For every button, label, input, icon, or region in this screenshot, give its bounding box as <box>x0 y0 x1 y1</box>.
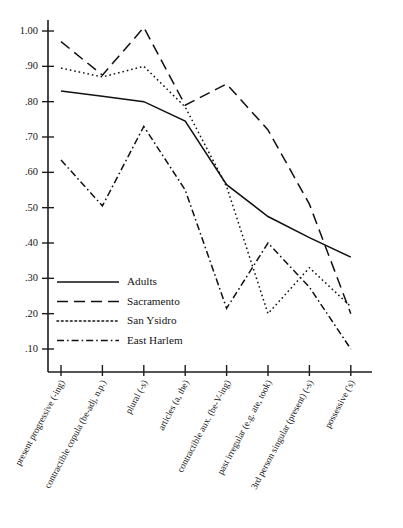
y-tick-label: .90 <box>25 60 38 71</box>
legend-label-san-ysidro: San Ysidro <box>127 314 177 326</box>
y-axis: 1.00.90.80.70.60.50.40.30.20.10 <box>20 20 54 372</box>
y-tick-label: .60 <box>25 166 38 177</box>
y-tick-label: .30 <box>25 272 38 283</box>
legend-label-east-harlem: East Harlem <box>127 334 183 346</box>
series-lines <box>61 27 351 349</box>
x-tick-label: articles (a, the) <box>156 378 192 432</box>
series-line-san-ysidro <box>61 66 351 313</box>
y-tick-label: .80 <box>25 96 38 107</box>
y-tick-label: .70 <box>25 131 38 142</box>
y-tick-label: 1.00 <box>20 25 38 36</box>
x-tick-label: possessive ('s) <box>323 378 358 430</box>
legend-label-sacramento: Sacramento <box>127 295 180 307</box>
x-axis: present progressive (-ing)contractible c… <box>13 365 372 491</box>
x-tick-label: plural (-s) <box>123 378 150 416</box>
series-line-east-harlem <box>61 126 351 349</box>
y-tick-label: .10 <box>25 343 38 354</box>
y-tick-label: .20 <box>25 308 38 319</box>
y-tick-label: .40 <box>25 237 38 248</box>
chart-legend: AdultsSacramentoSan YsidroEast Harlem <box>57 275 183 346</box>
legend-label-adults: Adults <box>127 275 157 287</box>
y-tick-label: .50 <box>25 202 38 213</box>
chart-canvas: 1.00.90.80.70.60.50.40.30.20.10 present … <box>0 0 403 528</box>
series-line-sacramento <box>61 27 351 313</box>
series-line-adults <box>61 91 351 257</box>
line-chart: 1.00.90.80.70.60.50.40.30.20.10 present … <box>0 0 403 528</box>
